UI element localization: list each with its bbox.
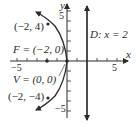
x-tick-label-neg5: −5 [11,62,22,73]
point-top [46,22,49,25]
x-axis [10,58,128,61]
label-point-top: (−2, 4) [14,20,44,33]
label-focus: F = (−2, 0) [12,43,64,56]
label-vertex: V = (0, 0) [13,73,57,86]
focus-point [45,59,49,63]
point-bottom [46,96,49,99]
label-point-bottom: (−2, −4) [8,90,45,103]
label-directrix: D: x = 2 [89,28,128,40]
parabola-diagram: y x −5 5 5 −5 (−2, 4) F = (−2, 0) V = (0… [0,0,136,124]
x-tick-label-5: 5 [112,62,117,73]
y-tick-label-5: 5 [59,10,64,21]
y-tick-label-neg5: −5 [55,103,66,114]
vertex-point [65,59,69,63]
x-axis-label: x [125,48,131,60]
